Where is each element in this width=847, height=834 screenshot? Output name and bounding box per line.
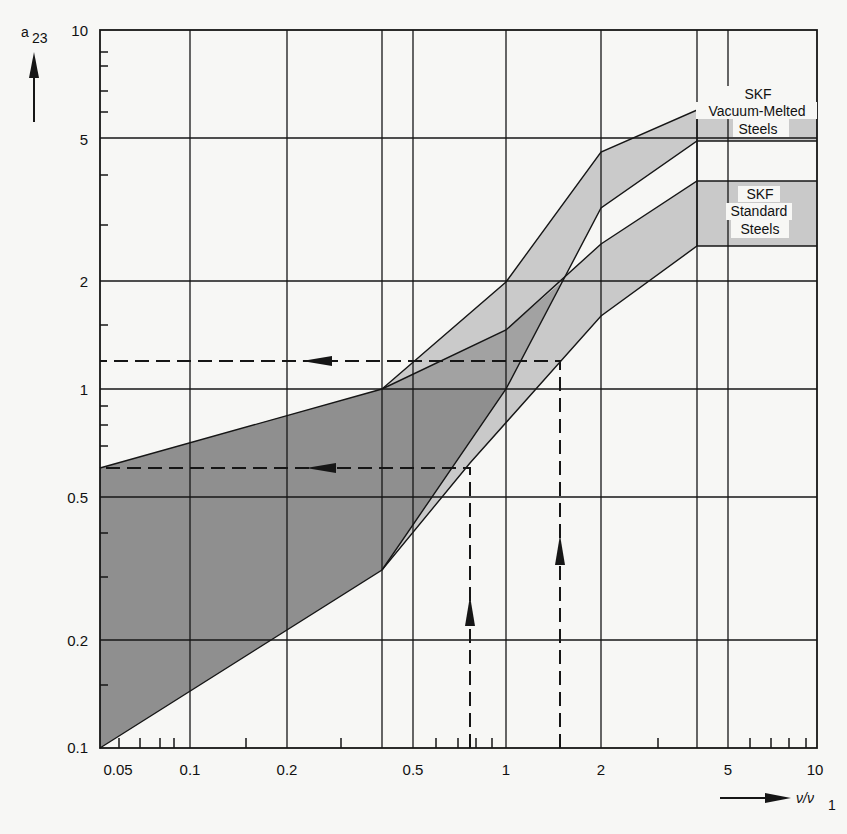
y-tick-10: 10 <box>71 22 88 39</box>
x-minor-ticks <box>119 738 806 748</box>
arrow-up-icon <box>555 535 565 565</box>
x-tick-2: 2 <box>597 761 605 778</box>
arrow-up-icon <box>465 596 475 626</box>
arrow-up-icon <box>29 52 39 78</box>
y-tick-0-1: 0.1 <box>67 739 88 756</box>
y-axis-symbol: a <box>21 24 29 40</box>
x-tick-1: 1 <box>502 761 510 778</box>
x-tick-0-05: 0.05 <box>103 761 132 778</box>
x-tick-5: 5 <box>724 761 732 778</box>
x-axis-subscript: 1 <box>828 797 836 813</box>
y-tick-2: 2 <box>80 273 88 290</box>
y-tick-1: 1 <box>80 381 88 398</box>
arrow-right-icon <box>765 793 791 803</box>
x-tick-0-5: 0.5 <box>403 761 424 778</box>
y-tick-labels: 10 5 2 1 0.5 0.2 0.1 <box>67 22 88 756</box>
arrow-left-icon <box>302 356 332 366</box>
vacuum-melted-band <box>382 110 817 570</box>
chart: SKF Vacuum-Melted Steels SKF Standard St… <box>0 0 847 834</box>
x-tick-0-1: 0.1 <box>180 761 201 778</box>
x-axis-symbol: ν/ν <box>796 790 814 806</box>
x-tick-labels: 0.05 0.1 0.2 0.5 1 2 5 10 <box>103 761 823 778</box>
x-tick-10: 10 <box>807 761 824 778</box>
legend-vacuum-line-3: Steels <box>739 121 778 137</box>
bands <box>100 110 817 748</box>
y-axis-title: a 23 <box>21 24 48 122</box>
y-axis-subscript: 23 <box>32 30 48 46</box>
legend-standard-line-3: Steels <box>741 221 780 237</box>
y-tick-5: 5 <box>80 131 88 148</box>
y-tick-0-5: 0.5 <box>67 489 88 506</box>
x-axis-title: ν/ν 1 <box>720 790 836 813</box>
legend-vacuum-line-2: Vacuum-Melted <box>708 103 805 119</box>
legend-vacuum-line-1: SKF <box>744 86 771 102</box>
legend-standard-line-1: SKF <box>746 186 773 202</box>
y-tick-0-2: 0.2 <box>67 632 88 649</box>
grid <box>100 30 817 748</box>
legend-standard-line-2: Standard <box>731 203 788 219</box>
x-tick-0-2: 0.2 <box>277 761 298 778</box>
